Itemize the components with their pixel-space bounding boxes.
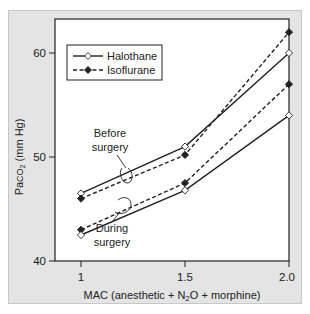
- y-axis: 40 50 60 PaCO2 (mm Hg): [13, 47, 55, 267]
- y-tick-label: 60: [33, 47, 46, 59]
- y-tick-label: 50: [33, 151, 46, 163]
- x-tick-label: 1.5: [177, 271, 193, 283]
- y-tick-label: 40: [33, 255, 46, 267]
- x-tick-label: 1: [78, 271, 84, 283]
- svg-text:Before: Before: [94, 127, 126, 139]
- x-tick-label: 2.0: [279, 271, 295, 283]
- x-axis-label: MAC (anesthetic + N2O + morphine): [84, 289, 261, 303]
- svg-text:Isoflurane: Isoflurane: [107, 64, 155, 76]
- y-axis-label: PaCO2 (mm Hg): [13, 119, 26, 196]
- svg-text:During: During: [96, 222, 128, 234]
- x-axis: 1 1.5 2.0 MAC (anesthetic + N2O + morphi…: [78, 261, 295, 303]
- line-chart: 40 50 60 PaCO2 (mm Hg) 1 1.5 2.0 MAC (an…: [0, 0, 310, 314]
- legend: Halothane Isoflurane: [67, 45, 162, 80]
- svg-text:surgery: surgery: [92, 141, 129, 153]
- svg-text:surgery: surgery: [94, 236, 131, 248]
- svg-text:Halothane: Halothane: [107, 50, 157, 62]
